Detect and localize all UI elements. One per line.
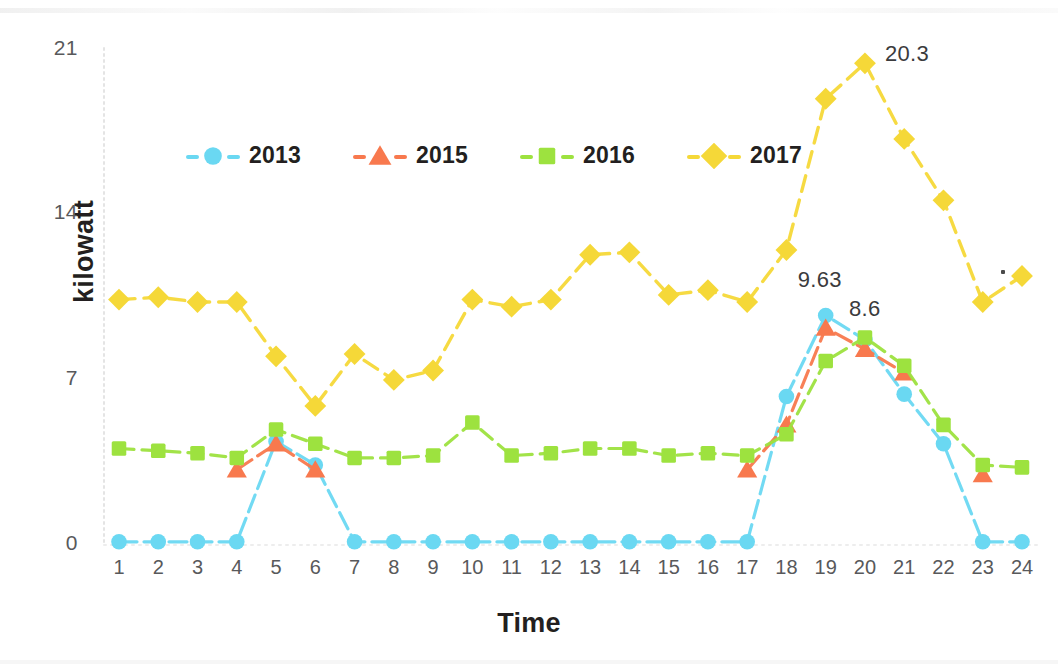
x-tick-label: 23 (972, 556, 994, 579)
data-point-marker (425, 534, 441, 550)
legend-label: 2016 (583, 142, 635, 169)
series-2015 (227, 319, 993, 483)
legend-dash-right (728, 155, 741, 159)
data-point-marker (504, 448, 519, 463)
legend-marker (532, 143, 562, 169)
data-point-marker (582, 534, 598, 550)
legend-dash-right (227, 155, 240, 159)
data-point-marker (936, 436, 952, 452)
legend-label: 2017 (750, 142, 802, 169)
data-point-marker (150, 534, 166, 550)
x-tick-label: 8 (388, 556, 399, 579)
data-point-marker (387, 451, 402, 466)
x-tick-label: 3 (192, 556, 203, 579)
data-point-marker (229, 534, 245, 550)
data-point-marker (739, 534, 755, 550)
x-tick-label: 20 (854, 556, 876, 579)
data-point-marker (779, 427, 794, 442)
data-point-marker (111, 534, 127, 550)
x-tick-label: 9 (428, 556, 439, 579)
data-point-marker (465, 415, 480, 430)
x-tick-label: 6 (310, 556, 321, 579)
data-point-marker (230, 451, 245, 466)
data-point-marker (975, 534, 991, 550)
data-point-marker (1011, 265, 1033, 287)
data-point-marker (818, 354, 833, 369)
data-point-marker (661, 448, 676, 463)
data-point-marker (740, 448, 755, 463)
data-point-marker (540, 289, 562, 311)
data-point-marker (1015, 460, 1030, 475)
series-2013 (111, 308, 1030, 550)
data-point-marker (422, 360, 444, 382)
diamond-icon (687, 144, 741, 168)
data-point-marker (383, 369, 405, 391)
x-tick-label: 4 (231, 556, 242, 579)
data-point-marker (386, 534, 402, 550)
x-tick-label: 1 (113, 556, 124, 579)
series-2017 (108, 52, 1033, 416)
data-point-marker (190, 534, 206, 550)
triangle-icon (353, 144, 407, 168)
legend-marker (365, 143, 395, 169)
scan-speck (1001, 270, 1005, 274)
x-tick-label: 17 (736, 556, 758, 579)
data-point-marker (622, 534, 638, 550)
legend-item-2017[interactable]: 2017 (687, 142, 802, 169)
x-tick-label: 24 (1011, 556, 1033, 579)
data-point-marker (501, 296, 523, 318)
series-line (119, 63, 1022, 406)
data-point-marker (622, 441, 637, 456)
x-tick-label: 19 (815, 556, 837, 579)
x-tick-label: 11 (501, 556, 522, 579)
data-point-marker (347, 534, 363, 550)
x-tick-label: 15 (658, 556, 680, 579)
data-point-marker (618, 241, 640, 263)
x-tick-label: 10 (461, 556, 483, 579)
x-tick-label: 21 (893, 556, 915, 579)
data-point-marker (465, 534, 481, 550)
data-point-marker (543, 534, 559, 550)
data-point-marker (265, 345, 287, 367)
square-icon (520, 144, 574, 168)
data-point-marker (544, 446, 559, 461)
data-point-marker (190, 446, 205, 461)
data-label: 20.3 (885, 41, 929, 67)
chart-legend: 2013201520162017 (186, 142, 802, 169)
series-line (119, 337, 1022, 467)
data-point-marker (187, 291, 209, 313)
data-point-marker (151, 444, 166, 459)
data-point-marker (347, 451, 362, 466)
data-point-marker (226, 291, 248, 313)
data-point-marker (583, 441, 598, 456)
legend-marker (198, 143, 228, 169)
x-tick-label: 7 (349, 556, 360, 579)
data-point-marker (701, 446, 716, 461)
data-point-marker (858, 330, 873, 345)
x-tick-label: 2 (153, 556, 164, 579)
legend-item-2016[interactable]: 2016 (520, 142, 635, 169)
legend-dash-right (394, 155, 407, 159)
data-point-marker (1014, 534, 1030, 550)
series-line (119, 315, 1022, 541)
data-point-marker (269, 422, 284, 437)
x-tick-label: 22 (932, 556, 954, 579)
x-tick-label: 12 (540, 556, 562, 579)
legend-label: 2015 (416, 142, 468, 169)
data-point-marker (308, 436, 323, 451)
x-tick-label: 5 (270, 556, 281, 579)
data-point-marker (426, 448, 441, 463)
x-axis-title: Time (0, 608, 1058, 639)
data-point-marker (504, 534, 520, 550)
data-point-marker (936, 418, 951, 433)
legend-item-2015[interactable]: 2015 (353, 142, 468, 169)
series-2016 (112, 330, 1030, 475)
data-point-marker (897, 359, 912, 374)
x-tick-label: 14 (618, 556, 640, 579)
data-point-marker (461, 289, 483, 311)
x-tick-label: 18 (775, 556, 797, 579)
data-point-marker (893, 128, 915, 150)
data-point-marker (779, 389, 795, 405)
legend-item-2013[interactable]: 2013 (186, 142, 301, 169)
legend-marker (699, 143, 729, 169)
